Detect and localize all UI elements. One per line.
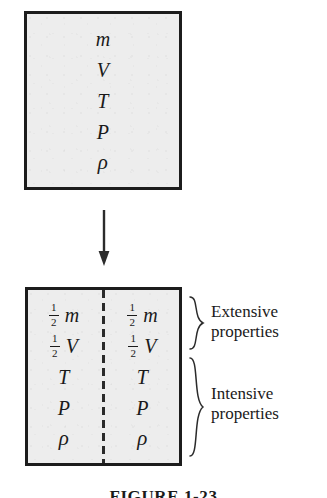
symbol-pressure: P: [58, 398, 71, 418]
symbol-temperature: T: [97, 91, 108, 111]
figure-container: m V T P ρ 1 2 m: [0, 0, 327, 498]
curly-brace-icon: [186, 357, 208, 457]
property-row-pressure: P: [58, 392, 71, 423]
intensive-properties-line1: Intensive: [211, 384, 279, 404]
fraction-denominator: 2: [128, 317, 136, 329]
property-row-volume: 1 2 V: [128, 330, 157, 361]
extensive-properties-line1: Extensive: [211, 302, 279, 322]
fraction-denominator: 2: [50, 317, 58, 329]
fraction-numerator: 1: [128, 302, 136, 314]
property-row-volume: 1 2 V: [50, 330, 79, 361]
extensive-properties-line2: properties: [211, 322, 279, 342]
property-row-pressure: P: [136, 392, 149, 423]
property-row-density: ρ: [137, 423, 147, 454]
property-row-density: ρ: [98, 147, 108, 178]
symbol-pressure: P: [136, 398, 149, 418]
symbol-density: ρ: [98, 152, 108, 173]
symbol-pressure: P: [97, 122, 110, 142]
symbol-density: ρ: [59, 428, 69, 449]
symbol-density: ρ: [137, 428, 147, 449]
property-row-temperature: T: [137, 361, 148, 392]
property-row-mass: 1 2 m: [49, 299, 80, 330]
fraction-denominator: 2: [51, 348, 59, 360]
symbol-temperature: T: [58, 367, 69, 387]
fraction-one-half: 1 2: [49, 302, 59, 328]
property-row-temperature: T: [97, 85, 108, 116]
symbol-mass: m: [96, 29, 111, 49]
symbol-mass: m: [65, 305, 80, 325]
property-row-mass: 1 2 m: [127, 299, 158, 330]
fraction-numerator: 1: [50, 302, 58, 314]
symbol-volume: V: [66, 336, 79, 356]
property-row-mass: m: [96, 23, 111, 54]
symbol-temperature: T: [137, 367, 148, 387]
intensive-properties-line2: properties: [211, 404, 279, 424]
fraction-numerator: 1: [129, 333, 137, 345]
right-half-property-list: 1 2 m 1 2 V T P ρ: [103, 287, 182, 466]
fraction-denominator: 2: [129, 348, 137, 360]
extensive-properties-label: Extensive properties: [211, 302, 279, 342]
whole-system-property-list: m V T P ρ: [24, 11, 182, 190]
symbol-mass: m: [143, 305, 158, 325]
fraction-numerator: 1: [51, 333, 59, 345]
symbol-volume: V: [144, 336, 157, 356]
fraction-one-half: 1 2: [50, 333, 60, 359]
intensive-properties-label: Intensive properties: [211, 384, 279, 424]
left-half-property-list: 1 2 m 1 2 V T P ρ: [25, 287, 103, 466]
division-arrow-icon: [96, 210, 112, 266]
fraction-one-half: 1 2: [128, 333, 138, 359]
curly-brace-icon: [186, 296, 208, 350]
property-row-pressure: P: [97, 116, 110, 147]
property-row-density: ρ: [59, 423, 69, 454]
property-row-volume: V: [97, 54, 110, 85]
dashed-divider-line: [102, 290, 105, 463]
symbol-volume: V: [97, 60, 110, 80]
property-row-temperature: T: [58, 361, 69, 392]
fraction-one-half: 1 2: [127, 302, 137, 328]
figure-caption: FIGURE 1-23: [0, 487, 327, 498]
